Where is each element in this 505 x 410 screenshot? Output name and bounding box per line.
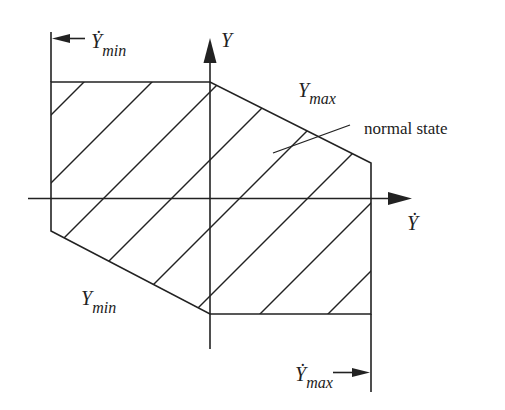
hatch-line xyxy=(0,1,505,410)
y-axis-arrow-icon xyxy=(204,38,217,63)
y-min-label: Ymin xyxy=(81,287,116,316)
y-max-sub: max xyxy=(309,90,336,107)
ydot-max-label: Ẏmax xyxy=(295,363,333,391)
x-axis-label: Ẏ xyxy=(407,212,420,234)
ydot-min-arrow xyxy=(52,34,85,43)
state-region-diagram: Y Ẏ Ẏmin Ymax normal state Ymin Ẏmax xyxy=(0,0,505,410)
x-axis-arrow-icon xyxy=(388,192,412,205)
ydot-max-arrow xyxy=(333,368,370,377)
hatch-line xyxy=(0,137,505,410)
region-hatching xyxy=(0,0,505,410)
hatch-line xyxy=(0,0,505,302)
hatch-line xyxy=(0,0,505,410)
x-axis xyxy=(28,192,412,205)
right-arrow-icon xyxy=(352,368,370,377)
ydot-max-sub: max xyxy=(306,374,333,391)
y-min-sub: min xyxy=(92,299,116,316)
ydot-min-sub: min xyxy=(102,42,126,59)
ydot-min-label: Ẏmin xyxy=(91,30,126,59)
y-max-label: Ymax xyxy=(298,79,336,107)
y-axis-label: Y xyxy=(221,29,234,51)
hatch-line xyxy=(0,0,505,166)
normal-state-label: normal state xyxy=(364,119,448,138)
left-arrow-icon xyxy=(52,34,70,43)
normal-state-leader xyxy=(273,125,350,153)
